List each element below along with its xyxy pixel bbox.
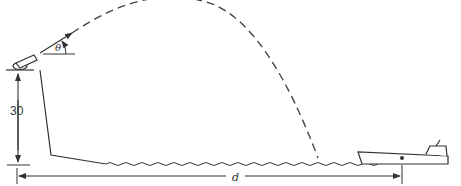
height-dimension [7,74,30,165]
angle-label: θ [55,42,61,53]
cannon-icon [13,55,37,70]
angle-arc [62,41,66,54]
height-label: 30 [10,104,23,118]
trajectory-path [72,0,318,158]
distance-dimension [17,165,402,184]
water-surface [106,163,378,166]
projectile-diagram [0,0,461,186]
boat-icon [358,140,448,164]
cliff-profile [40,70,106,164]
distance-label: d [232,171,239,184]
